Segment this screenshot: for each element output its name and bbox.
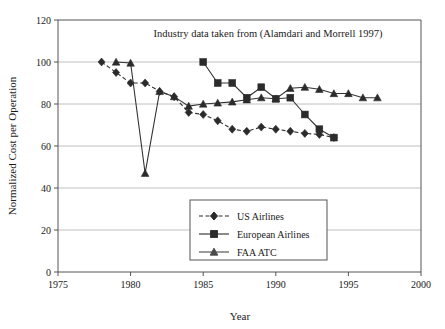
data-point xyxy=(301,111,308,118)
y-tick-label-120: 120 xyxy=(36,15,51,26)
x-tick-label-1975: 1975 xyxy=(48,279,68,290)
data-point xyxy=(287,94,294,101)
y-tick-label-80: 80 xyxy=(41,99,51,110)
y-tick-label-60: 60 xyxy=(41,141,51,152)
y-axis-title: Normalized Cost per Operation xyxy=(6,76,18,215)
data-point xyxy=(214,80,221,87)
chart-legend: US AirlinesEuropean AirlinesFAA ATC xyxy=(190,200,327,260)
y-tick-label-0: 0 xyxy=(46,267,51,278)
x-tick-label-1990: 1990 xyxy=(266,279,286,290)
y-tick-label-100: 100 xyxy=(36,57,51,68)
legend-marker-square-icon xyxy=(211,231,218,238)
legend-item-european-airlines[interactable]: European Airlines xyxy=(199,229,310,240)
legend-label: US Airlines xyxy=(237,211,284,222)
y-tick-label-20: 20 xyxy=(41,225,51,236)
legend-label: FAA ATC xyxy=(237,247,277,258)
y-tick-label-40: 40 xyxy=(41,183,51,194)
cost-per-operation-line-chart: 020406080100120 197519801985199019952000… xyxy=(0,0,445,329)
x-tick-label-1985: 1985 xyxy=(193,279,213,290)
x-tick-label-1980: 1980 xyxy=(121,279,141,290)
data-point xyxy=(258,84,265,91)
legend-label: European Airlines xyxy=(237,229,310,240)
data-point xyxy=(229,80,236,87)
x-tick-label-2000: 2000 xyxy=(411,279,431,290)
data-point xyxy=(330,134,337,141)
x-tick-label-1995: 1995 xyxy=(338,279,358,290)
chart-container: 020406080100120 197519801985199019952000… xyxy=(0,0,445,329)
chart-title: Industry data taken from (Alamdari and M… xyxy=(154,28,383,40)
x-axis-title: Year xyxy=(230,310,251,322)
data-point xyxy=(316,126,323,133)
data-point xyxy=(200,59,207,66)
